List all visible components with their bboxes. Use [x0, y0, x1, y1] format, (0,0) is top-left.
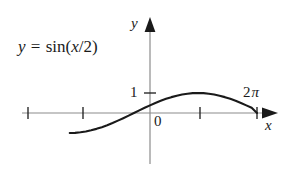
origin-label: 0: [154, 114, 162, 129]
figure-container: y = sin(x/2) y x 1 0 2π: [0, 0, 286, 173]
equation-argument-denominator: 2: [83, 37, 92, 56]
pi-symbol: π: [251, 84, 260, 100]
two-pi-coefficient: 2: [243, 84, 251, 100]
y-tick-label-one: 1: [130, 85, 138, 100]
equation-function-name: sin(: [46, 37, 72, 56]
x-axis-label: x: [265, 118, 272, 133]
equation-close-paren: ): [92, 37, 98, 56]
y-axis-label: y: [131, 16, 138, 31]
equation-argument-variable: x: [71, 37, 79, 56]
y-axis-arrowhead: [145, 17, 156, 32]
equation-equals: =: [26, 37, 46, 56]
x-tick-label-two-pi: 2π: [243, 85, 259, 100]
equation-label: y = sin(x/2): [18, 38, 98, 55]
equation-lhs: y: [18, 37, 26, 56]
